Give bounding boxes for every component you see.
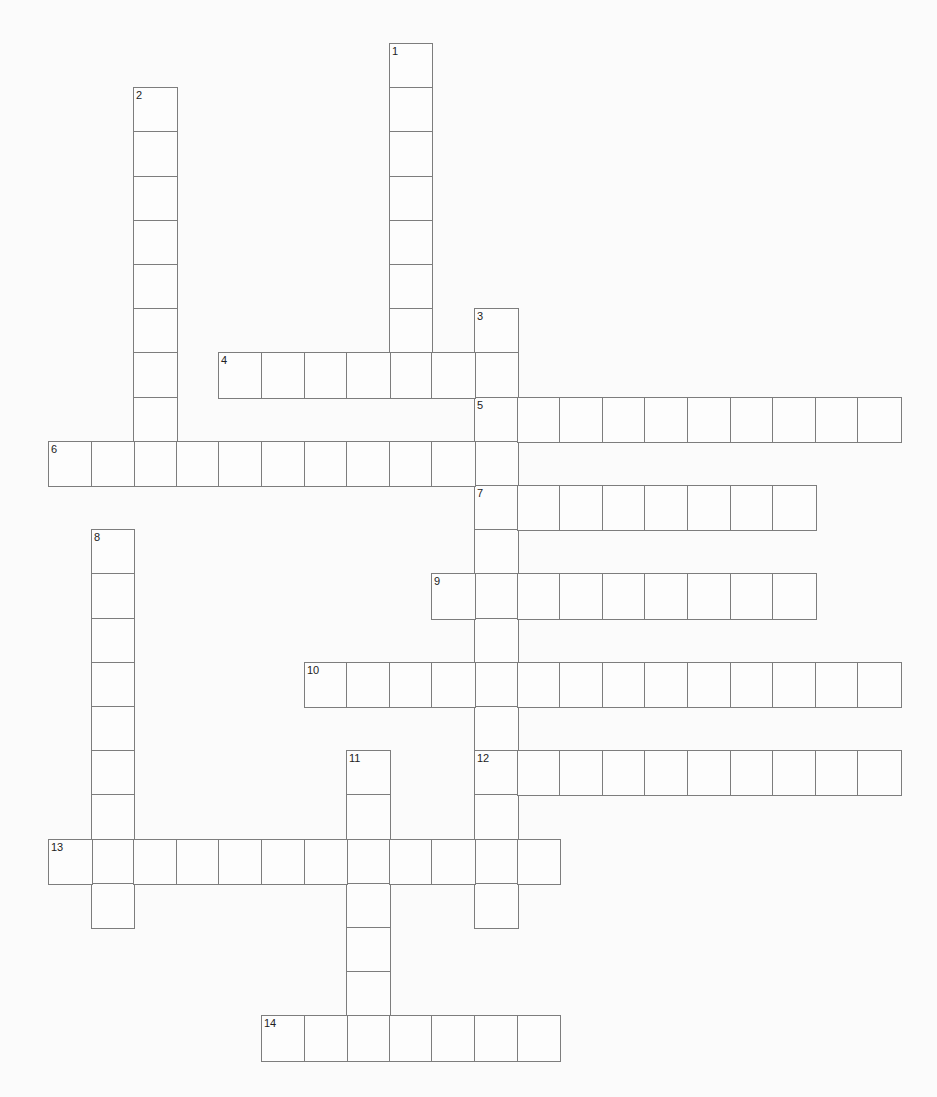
crossword-cell[interactable] bbox=[431, 352, 476, 399]
crossword-cell[interactable] bbox=[431, 441, 476, 487]
crossword-cell[interactable] bbox=[730, 662, 774, 708]
crossword-cell[interactable] bbox=[644, 485, 689, 531]
crossword-cell[interactable]: 10 bbox=[304, 662, 348, 708]
crossword-cell[interactable] bbox=[218, 839, 263, 885]
crossword-cell[interactable] bbox=[559, 485, 604, 531]
crossword-cell[interactable] bbox=[133, 131, 178, 178]
crossword-cell[interactable] bbox=[815, 397, 859, 443]
crossword-cell[interactable] bbox=[261, 441, 306, 487]
crossword-cell[interactable] bbox=[474, 441, 519, 487]
crossword-cell[interactable]: 5 bbox=[474, 397, 519, 443]
crossword-cell[interactable] bbox=[730, 750, 774, 796]
crossword-cell[interactable] bbox=[517, 1015, 561, 1062]
crossword-cell[interactable] bbox=[772, 573, 817, 620]
crossword-cell[interactable] bbox=[474, 618, 519, 664]
crossword-cell[interactable] bbox=[389, 308, 433, 354]
crossword-cell[interactable]: 6 bbox=[48, 441, 93, 487]
crossword-cell[interactable] bbox=[857, 750, 902, 796]
crossword-cell[interactable] bbox=[602, 662, 646, 708]
crossword-cell[interactable] bbox=[517, 397, 561, 443]
crossword-cell[interactable] bbox=[91, 662, 135, 708]
crossword-cell[interactable] bbox=[304, 441, 348, 487]
crossword-cell[interactable] bbox=[602, 485, 646, 531]
crossword-cell[interactable] bbox=[687, 662, 732, 708]
crossword-cell[interactable]: 7 bbox=[474, 485, 519, 531]
crossword-cell[interactable] bbox=[730, 573, 774, 620]
crossword-cell[interactable] bbox=[133, 352, 178, 399]
crossword-cell[interactable] bbox=[517, 573, 561, 620]
crossword-cell[interactable] bbox=[389, 264, 433, 310]
crossword-cell[interactable] bbox=[133, 397, 178, 443]
crossword-cell[interactable] bbox=[730, 485, 774, 531]
crossword-cell[interactable] bbox=[431, 662, 476, 708]
crossword-cell[interactable] bbox=[474, 352, 519, 399]
crossword-cell[interactable] bbox=[389, 176, 433, 222]
crossword-cell[interactable] bbox=[602, 750, 646, 796]
crossword-cell[interactable]: 4 bbox=[218, 352, 263, 399]
crossword-cell[interactable] bbox=[644, 573, 689, 620]
crossword-cell[interactable] bbox=[474, 794, 519, 841]
crossword-cell[interactable] bbox=[644, 662, 689, 708]
crossword-cell[interactable] bbox=[687, 573, 732, 620]
crossword-cell[interactable] bbox=[815, 662, 859, 708]
crossword-cell[interactable] bbox=[517, 839, 561, 885]
crossword-cell[interactable] bbox=[133, 176, 178, 222]
crossword-cell[interactable] bbox=[133, 441, 178, 487]
crossword-cell[interactable] bbox=[431, 1015, 476, 1062]
crossword-cell[interactable] bbox=[176, 441, 220, 487]
crossword-cell[interactable] bbox=[474, 529, 519, 575]
crossword-cell[interactable] bbox=[304, 1015, 348, 1062]
crossword-cell[interactable] bbox=[602, 397, 646, 443]
crossword-cell[interactable] bbox=[176, 839, 220, 885]
crossword-cell[interactable] bbox=[644, 397, 689, 443]
crossword-cell[interactable] bbox=[815, 750, 859, 796]
crossword-cell[interactable] bbox=[91, 794, 135, 841]
crossword-cell[interactable] bbox=[91, 883, 135, 929]
crossword-cell[interactable] bbox=[687, 397, 732, 443]
crossword-cell[interactable] bbox=[389, 839, 433, 885]
crossword-cell[interactable] bbox=[346, 971, 391, 1017]
crossword-cell[interactable] bbox=[133, 839, 178, 885]
crossword-cell[interactable] bbox=[346, 883, 391, 929]
crossword-cell[interactable] bbox=[346, 352, 391, 399]
crossword-cell[interactable] bbox=[474, 883, 519, 929]
crossword-cell[interactable]: 9 bbox=[431, 573, 476, 620]
crossword-cell[interactable] bbox=[474, 1015, 519, 1062]
crossword-cell[interactable]: 12 bbox=[474, 750, 519, 796]
crossword-cell[interactable] bbox=[91, 441, 135, 487]
crossword-cell[interactable]: 8 bbox=[91, 529, 135, 575]
crossword-cell[interactable]: 13 bbox=[48, 839, 93, 885]
crossword-cell[interactable] bbox=[346, 441, 391, 487]
crossword-cell[interactable] bbox=[431, 839, 476, 885]
crossword-cell[interactable] bbox=[389, 662, 433, 708]
crossword-cell[interactable] bbox=[389, 1015, 433, 1062]
crossword-cell[interactable] bbox=[517, 485, 561, 531]
crossword-cell[interactable] bbox=[559, 662, 604, 708]
crossword-cell[interactable] bbox=[346, 1015, 391, 1062]
crossword-cell[interactable] bbox=[772, 397, 817, 443]
crossword-cell[interactable] bbox=[304, 352, 348, 399]
crossword-cell[interactable] bbox=[517, 750, 561, 796]
crossword-cell[interactable]: 14 bbox=[261, 1015, 306, 1062]
crossword-cell[interactable]: 11 bbox=[346, 750, 391, 796]
crossword-cell[interactable] bbox=[91, 618, 135, 664]
crossword-cell[interactable] bbox=[389, 352, 433, 399]
crossword-cell[interactable] bbox=[474, 573, 519, 620]
crossword-cell[interactable] bbox=[346, 662, 391, 708]
crossword-cell[interactable]: 2 bbox=[133, 87, 178, 133]
crossword-cell[interactable] bbox=[91, 706, 135, 752]
crossword-cell[interactable] bbox=[133, 308, 178, 354]
crossword-cell[interactable] bbox=[772, 750, 817, 796]
crossword-cell[interactable] bbox=[474, 839, 519, 885]
crossword-cell[interactable] bbox=[389, 87, 433, 133]
crossword-cell[interactable]: 3 bbox=[474, 308, 519, 354]
crossword-cell[interactable] bbox=[687, 485, 732, 531]
crossword-cell[interactable]: 1 bbox=[389, 43, 433, 89]
crossword-cell[interactable] bbox=[389, 220, 433, 266]
crossword-cell[interactable] bbox=[389, 131, 433, 178]
crossword-cell[interactable] bbox=[346, 794, 391, 841]
crossword-cell[interactable] bbox=[133, 264, 178, 310]
crossword-cell[interactable] bbox=[389, 441, 433, 487]
crossword-cell[interactable] bbox=[474, 706, 519, 752]
crossword-cell[interactable] bbox=[644, 750, 689, 796]
